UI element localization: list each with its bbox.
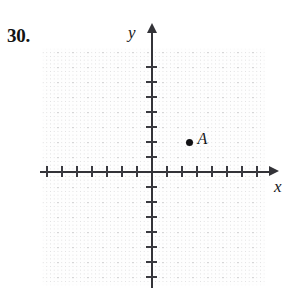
data-point-a <box>186 139 193 146</box>
x-axis-line <box>40 171 272 173</box>
x-axis-arrow-icon <box>269 166 279 176</box>
y-axis-tick <box>146 201 157 203</box>
y-axis-tick <box>146 81 157 83</box>
y-axis-tick <box>146 141 157 143</box>
x-axis-tick <box>166 166 168 177</box>
y-axis-tick <box>146 96 157 98</box>
data-point-a-label: A <box>198 131 208 147</box>
y-axis-tick <box>146 66 157 68</box>
x-axis-tick <box>256 166 258 177</box>
x-axis-tick <box>121 166 123 177</box>
y-axis-arrow-icon <box>147 23 157 33</box>
x-axis-tick <box>136 166 138 177</box>
x-axis-tick <box>76 166 78 177</box>
x-axis-tick <box>226 166 228 177</box>
y-axis-tick <box>146 246 157 248</box>
y-axis-tick <box>146 276 157 278</box>
y-axis-tick <box>146 261 157 263</box>
y-axis-line <box>151 32 153 288</box>
problem-number: 30. <box>7 26 30 45</box>
x-axis-tick <box>106 166 108 177</box>
y-axis-tick <box>146 156 157 158</box>
x-axis-tick <box>241 166 243 177</box>
y-axis-tick <box>146 111 157 113</box>
y-axis-label: y <box>128 24 136 41</box>
x-axis-label: x <box>274 178 282 195</box>
x-axis-tick <box>181 166 183 177</box>
x-axis-tick <box>46 166 48 177</box>
x-axis-tick <box>61 166 63 177</box>
y-axis-tick <box>146 216 157 218</box>
x-axis-tick <box>211 166 213 177</box>
y-axis-tick <box>146 126 157 128</box>
plot-area: x y A <box>40 28 268 288</box>
x-axis-tick <box>91 166 93 177</box>
x-axis-tick <box>196 166 198 177</box>
y-axis-tick <box>146 186 157 188</box>
coordinate-plane-figure: 30. x y A <box>0 0 291 297</box>
y-axis-tick <box>146 231 157 233</box>
